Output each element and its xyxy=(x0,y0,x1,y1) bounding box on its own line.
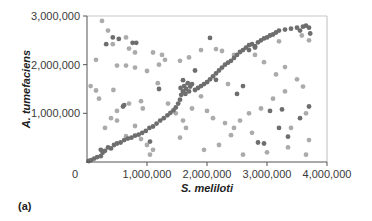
data-point xyxy=(232,126,237,131)
data-point xyxy=(145,69,150,74)
y-tick-label: 3,000,000 xyxy=(31,10,80,22)
data-point xyxy=(214,77,219,82)
data-point xyxy=(299,33,304,38)
data-point xyxy=(181,78,186,83)
data-point xyxy=(115,109,120,114)
data-point xyxy=(111,88,116,93)
data-point xyxy=(241,152,246,157)
y-tick-label: 2,000,000 xyxy=(31,59,80,71)
data-point xyxy=(139,99,144,104)
data-point xyxy=(247,111,252,116)
data-point xyxy=(124,35,129,40)
panel-label: (a) xyxy=(18,200,31,212)
data-point xyxy=(178,135,183,140)
data-point xyxy=(193,68,198,73)
data-point xyxy=(187,89,192,94)
scatter-chart: 01,000,0002,000,0003,000,0004,000,0001,0… xyxy=(0,0,372,221)
data-point xyxy=(124,63,129,68)
data-point xyxy=(286,134,291,139)
x-tick-label: 1,000,000 xyxy=(123,168,172,180)
data-point xyxy=(277,28,282,33)
data-point xyxy=(307,104,312,109)
x-tick-label: 4,000,000 xyxy=(303,168,352,180)
data-point xyxy=(262,60,267,65)
data-point xyxy=(283,89,288,94)
data-point xyxy=(298,28,303,33)
data-point xyxy=(289,126,294,131)
data-point xyxy=(241,84,246,89)
data-point xyxy=(199,48,204,53)
data-point xyxy=(295,77,300,82)
data-point xyxy=(133,65,138,70)
data-point xyxy=(134,40,139,45)
data-point xyxy=(94,88,99,93)
data-point xyxy=(115,63,120,68)
data-point xyxy=(298,116,303,121)
data-point xyxy=(127,46,132,51)
data-point xyxy=(289,26,294,31)
data-point xyxy=(199,94,204,99)
data-point xyxy=(277,126,282,131)
data-point xyxy=(116,37,121,42)
data-point xyxy=(98,147,103,152)
data-point xyxy=(274,72,279,77)
data-point xyxy=(178,97,183,102)
data-point xyxy=(148,139,153,144)
data-point xyxy=(250,130,255,135)
data-point xyxy=(307,138,312,143)
data-point xyxy=(151,147,156,152)
x-tick-label: 2,000,000 xyxy=(183,168,232,180)
data-point xyxy=(229,133,234,138)
data-point xyxy=(115,118,120,123)
data-point xyxy=(157,87,162,92)
data-point xyxy=(148,152,153,157)
data-point xyxy=(259,106,264,111)
y-tick-label: 1,000,000 xyxy=(31,107,80,119)
data-point xyxy=(202,147,207,152)
data-point xyxy=(304,111,309,116)
data-point xyxy=(205,109,210,114)
data-point xyxy=(220,49,225,54)
data-point xyxy=(208,36,213,41)
data-point xyxy=(140,106,145,111)
data-point xyxy=(308,31,313,36)
data-point xyxy=(226,82,231,87)
data-point xyxy=(103,126,108,131)
data-point xyxy=(184,126,189,131)
data-point xyxy=(307,38,312,43)
data-point xyxy=(190,82,195,87)
data-point xyxy=(181,118,186,123)
data-point xyxy=(110,35,115,40)
data-point xyxy=(301,84,306,89)
x-tick-label: 0 xyxy=(72,168,78,180)
data-point xyxy=(268,109,273,114)
data-point xyxy=(139,137,144,142)
y-axis-title: A. tumefaciens xyxy=(20,50,32,129)
x-tick-label: 3,000,000 xyxy=(243,168,292,180)
data-point xyxy=(256,140,261,145)
data-point xyxy=(88,84,93,89)
data-points xyxy=(86,19,312,164)
data-point xyxy=(253,45,258,50)
data-point xyxy=(265,150,270,155)
data-point xyxy=(127,101,132,106)
data-point xyxy=(163,57,168,62)
data-point xyxy=(280,107,285,112)
data-point xyxy=(247,48,252,53)
data-point xyxy=(190,106,195,111)
data-point xyxy=(307,25,312,30)
data-point xyxy=(94,57,99,62)
data-point xyxy=(178,58,183,63)
data-point xyxy=(104,42,109,47)
data-point xyxy=(100,19,105,24)
data-point xyxy=(211,116,216,121)
data-point xyxy=(271,96,276,101)
data-point xyxy=(283,65,288,70)
data-point xyxy=(133,124,138,129)
data-point xyxy=(106,28,111,33)
data-point xyxy=(151,50,156,55)
data-point xyxy=(304,152,309,157)
data-point xyxy=(214,47,219,52)
data-point xyxy=(166,101,171,106)
data-point xyxy=(110,42,115,47)
